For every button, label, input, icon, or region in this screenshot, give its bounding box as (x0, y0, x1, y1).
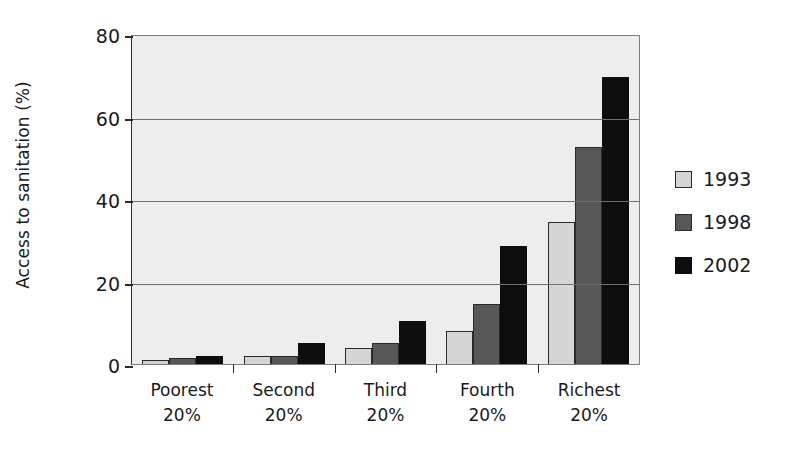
x-axis-category-labels: Poorest20%Second20%Third20%Fourth20%Rich… (131, 378, 640, 427)
bar[interactable] (548, 222, 575, 364)
x-axis-category-label: Second20% (233, 378, 335, 427)
legend-item-label: 1993 (703, 170, 751, 189)
bar[interactable] (446, 331, 473, 364)
bar[interactable] (500, 246, 527, 364)
y-axis-tick-mark (125, 36, 133, 38)
x-axis-category-label-line1: Richest (558, 380, 621, 400)
bar[interactable] (372, 343, 399, 364)
bar-groups (132, 36, 639, 364)
x-axis-category-label-line1: Second (252, 380, 315, 400)
x-axis-category-label: Poorest20% (131, 378, 233, 427)
y-axis-title: Access to sanitation (%) (6, 0, 40, 370)
bar-chart: Access to sanitation (%) 020406080 Poore… (0, 0, 804, 466)
chart-legend: 199319982002 (675, 158, 795, 287)
x-axis-category-label-line1: Fourth (460, 380, 515, 400)
legend-item-label: 1998 (703, 213, 751, 232)
bar[interactable] (196, 356, 223, 364)
x-axis-tick-mark (335, 364, 336, 373)
legend-item-label: 2002 (703, 256, 751, 275)
bar-group (335, 36, 436, 364)
legend-item[interactable]: 1993 (675, 158, 795, 201)
x-axis-category-label-line2: 20% (436, 403, 538, 428)
x-axis-category-label-line2: 20% (233, 403, 335, 428)
bar[interactable] (271, 356, 298, 364)
bar[interactable] (399, 321, 426, 364)
y-axis-title-text: Access to sanitation (%) (13, 81, 33, 289)
bar-group (538, 36, 639, 364)
legend-swatch-icon (675, 257, 692, 274)
x-axis-category-label-line2: 20% (131, 403, 233, 428)
gridline (132, 119, 639, 120)
bar[interactable] (602, 77, 629, 364)
x-axis-tick-mark (436, 364, 437, 373)
y-axis-tick-label: 60 (44, 109, 120, 128)
x-axis-category-label-line1: Poorest (150, 380, 213, 400)
y-axis-tick-labels: 020406080 (44, 36, 120, 364)
legend-item[interactable]: 1998 (675, 201, 795, 244)
x-axis-tick-mark (538, 364, 539, 373)
legend-swatch-icon (675, 214, 692, 231)
bar[interactable] (345, 348, 372, 365)
legend-item[interactable]: 2002 (675, 244, 795, 287)
y-axis-tick-label: 0 (44, 357, 120, 376)
bar[interactable] (169, 358, 196, 364)
plot-area (131, 35, 640, 365)
legend-swatch-icon (675, 171, 692, 188)
bar-group (436, 36, 537, 364)
x-axis-category-label: Richest20% (538, 378, 640, 427)
y-axis-tick-mark (125, 284, 133, 286)
y-axis-tick-label: 40 (44, 192, 120, 211)
gridline (132, 201, 639, 202)
bar-group (233, 36, 334, 364)
bar[interactable] (298, 343, 325, 364)
x-axis-category-label: Third20% (335, 378, 437, 427)
y-axis-tick-mark (125, 201, 133, 203)
gridline (132, 284, 639, 285)
x-axis-category-label: Fourth20% (436, 378, 538, 427)
y-axis-tick-label: 80 (44, 27, 120, 46)
bar[interactable] (575, 147, 602, 364)
y-axis-tick-mark (125, 366, 133, 368)
bar[interactable] (142, 360, 169, 364)
x-axis-category-label-line1: Third (364, 380, 407, 400)
x-axis-category-label-line2: 20% (538, 403, 640, 428)
x-axis-tick-mark (233, 364, 234, 373)
y-axis-tick-label: 20 (44, 274, 120, 293)
bar[interactable] (473, 304, 500, 364)
x-axis-category-label-line2: 20% (335, 403, 437, 428)
y-axis-tick-mark (125, 119, 133, 121)
bar-group (132, 36, 233, 364)
bar[interactable] (244, 356, 271, 364)
